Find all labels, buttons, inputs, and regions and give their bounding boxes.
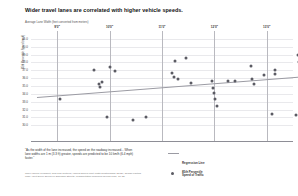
x-tick-label: 9'0" [54,25,60,29]
scatter-point [216,105,219,108]
y-tick-label: 41.0 [16,37,28,41]
x-tick-label: 11'0" [158,25,165,29]
y-tick-label: 39.0 [16,53,28,57]
scatter-point [132,118,135,121]
scatter-point [189,81,192,84]
x-tick-label: 13'0" [263,25,270,29]
gridline-vertical [110,31,111,141]
y-tick-label: 31.0 [16,115,28,119]
scatter-point [273,68,276,71]
y-tick-label: 32.0 [16,108,28,112]
y-tick-label: 38.0 [16,60,28,64]
scatter-point [252,82,255,85]
scatter-point [250,64,253,67]
x-tick-label: 10'0" [106,25,113,29]
legend-item-speed: 85th PercentileSpeed of Traffic [182,171,252,178]
y-tick-label: 30.0 [16,123,28,127]
scatter-point [234,80,237,83]
scatter-point [251,77,254,80]
scatter-point [213,92,216,95]
scatter-point [294,114,297,117]
scatter-point [271,112,274,115]
y-tick-label: 34.0 [16,92,28,96]
scatter-point [263,74,266,77]
scatter-point [100,81,103,84]
scatter-point [297,53,298,56]
chart-legend: Regression Line 85th PercentileSpeed of … [182,150,252,181]
scatter-point [212,86,215,89]
regression-line-swatch [168,153,179,154]
scatter-point [113,70,116,73]
legend-label-speed: 85th PercentileSpeed of Traffic [182,171,252,178]
gridline-vertical [267,31,268,141]
y-tick-label: 40.0 [16,45,28,49]
chart-source: Chief Vaccine President; New Trial Cultu… [25,172,147,178]
scatter-point [92,69,95,72]
plot-area: 85th Percentile Speed (mph) 41.040.039.0… [31,31,293,141]
scatter-point [99,85,102,88]
scatter-point [184,56,187,59]
x-tick-label: 12'0" [211,25,218,29]
y-tick-label: 33.0 [16,100,28,104]
x-axis-note: Average Lane Width (feet converted from … [25,20,88,24]
scatter-point [210,79,213,82]
scatter-point [174,59,177,62]
scatter-point [214,97,217,100]
chart-title: Wider travel lanes are correlated with h… [25,7,183,13]
scatter-dot-swatch [171,172,174,175]
x-axis-line [31,141,293,142]
y-tick-label: 37.0 [16,68,28,72]
scatter-point [145,116,148,119]
scatter-point [274,73,277,76]
legend-item-regression: Regression Line [182,150,252,168]
scatter-point [108,66,111,69]
scatter-point [58,98,61,101]
gridline-vertical [162,31,163,141]
gridline-vertical [57,31,58,141]
scatter-point [105,116,108,119]
legend-label-regression: Regression Line [182,161,205,165]
chart-figure: Wider travel lanes are correlated with h… [0,0,298,196]
scatter-point [176,77,179,80]
scatter-point [172,75,175,78]
scatter-point [226,80,229,83]
chart-quote: “As the width of the lane increased, the… [25,149,135,161]
y-tick-label: 35.0 [16,84,28,88]
y-tick-label: 36.0 [16,76,28,80]
